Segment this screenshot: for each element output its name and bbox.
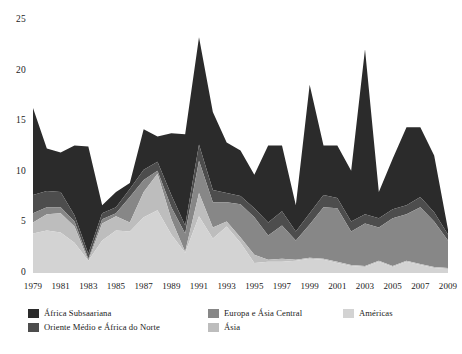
legend-item[interactable]: Europa e Ásia Central (208, 308, 302, 318)
legend-swatch-icon (208, 309, 219, 318)
legend-item-label: Oriente Médio e África do Norte (44, 322, 160, 332)
y-axis-tick-label: 10 (4, 166, 26, 176)
plot-svg (0, 0, 457, 300)
y-axis-tick-label: 5 (4, 216, 26, 226)
x-axis-tick-label: 2001 (322, 281, 352, 291)
legend-item[interactable]: África Subsaariana (28, 308, 111, 318)
x-axis-tick-label: 2005 (378, 281, 408, 291)
legend-swatch-icon (28, 309, 39, 318)
x-axis-tick-label: 1985 (101, 281, 131, 291)
x-axis-tick-label: 1979 (18, 281, 48, 291)
legend-item[interactable]: Américas (343, 308, 393, 318)
x-axis-tick-label: 1997 (267, 281, 297, 291)
legend-item-label: Ásia (224, 322, 240, 332)
x-axis-tick-label: 2007 (405, 281, 435, 291)
legend-item[interactable]: Ásia (208, 322, 240, 332)
legend-item[interactable]: Oriente Médio e África do Norte (28, 322, 160, 332)
legend-swatch-icon (208, 323, 219, 332)
legend-swatch-icon (28, 323, 39, 332)
chart-legend: África SubsaarianaOriente Médio e África… (0, 306, 457, 354)
y-axis-tick-label: 20 (4, 65, 26, 75)
x-axis-tick-label: 1999 (295, 281, 325, 291)
y-axis-tick-label: 0 (4, 267, 26, 277)
x-axis-tick-label: 1981 (46, 281, 76, 291)
legend-item-label: Américas (359, 308, 393, 318)
x-axis-tick-label: 2009 (433, 281, 462, 291)
x-axis-tick-label: 1991 (184, 281, 214, 291)
y-axis-tick-label: 15 (4, 115, 26, 125)
x-axis-tick-label: 1993 (212, 281, 242, 291)
x-axis-tick-label: 1995 (239, 281, 269, 291)
legend-swatch-icon (343, 309, 354, 318)
legend-item-label: Europa e Ásia Central (224, 308, 302, 318)
legend-item-label: África Subsaariana (44, 308, 111, 318)
y-axis-tick-label: 25 (4, 14, 26, 24)
x-axis-tick-label: 2003 (350, 281, 380, 291)
x-axis-tick-label: 1987 (129, 281, 159, 291)
plot-area: 0510152025 19791981198319851987198919911… (0, 0, 457, 300)
x-axis-tick-label: 1989 (156, 281, 186, 291)
x-axis-tick-label: 1983 (73, 281, 103, 291)
